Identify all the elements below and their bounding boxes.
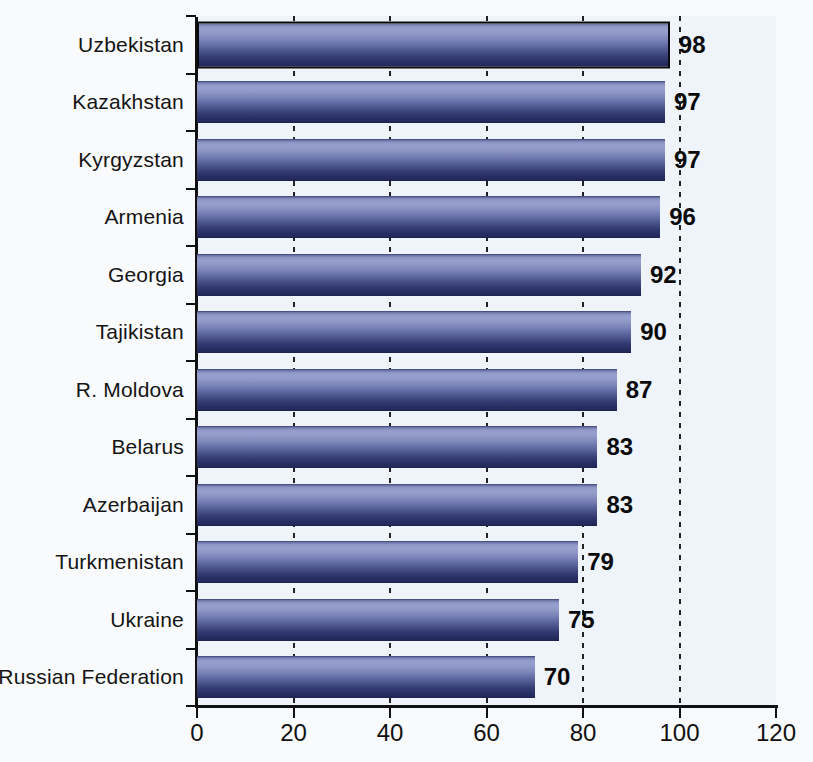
y-tick	[186, 15, 196, 17]
bar-row-azerbaijan: Azerbaijan 83	[0, 476, 813, 534]
y-tick	[186, 648, 196, 650]
bar-row-uzbekistan: Uzbekistan 98	[0, 16, 813, 74]
x-tick-label: 120	[748, 719, 804, 747]
bar-tajikistan	[197, 311, 631, 353]
x-tick	[679, 705, 681, 718]
x-tick-label: 20	[266, 719, 322, 747]
y-tick	[186, 590, 196, 592]
category-label: Armenia	[0, 189, 184, 247]
value-label: 92	[650, 261, 677, 289]
bar-armenia	[197, 196, 660, 238]
value-label: 70	[544, 663, 571, 691]
y-tick	[186, 418, 196, 420]
value-label: 98	[679, 31, 706, 59]
category-label: Uzbekistan	[0, 16, 184, 74]
bar-uzbekistan	[197, 21, 670, 68]
value-label: 97	[674, 146, 701, 174]
category-label: Georgia	[0, 246, 184, 304]
bar-kazakhstan	[197, 81, 665, 123]
x-tick	[582, 705, 584, 718]
bar-chart: Uzbekistan 98 Kazakhstan 97 Kyrgyzstan 9…	[0, 0, 813, 762]
value-label: 96	[669, 203, 696, 231]
category-label: Kazakhstan	[0, 74, 184, 132]
category-label: Azerbaijan	[0, 476, 184, 534]
bar-row-kyrgyzstan: Kyrgyzstan 97	[0, 131, 813, 189]
bar-row-r-moldova: R. Moldova 87	[0, 361, 813, 419]
value-label: 87	[626, 376, 653, 404]
bar-row-russian-federation: Russian Federation 70	[0, 649, 813, 707]
bar-georgia	[197, 254, 641, 296]
bar-row-tajikistan: Tajikistan 90	[0, 304, 813, 362]
x-tick	[775, 705, 777, 718]
y-tick	[186, 303, 196, 305]
bar-turkmenistan	[197, 541, 578, 583]
y-tick	[186, 533, 196, 535]
bar-r-moldova	[197, 369, 617, 411]
category-label: R. Moldova	[0, 361, 184, 419]
bar-row-belarus: Belarus 83	[0, 419, 813, 477]
bar-row-armenia: Armenia 96	[0, 189, 813, 247]
y-tick	[186, 360, 196, 362]
value-label: 75	[568, 606, 595, 634]
value-label: 90	[640, 318, 667, 346]
x-tick-label: 100	[652, 719, 708, 747]
value-label: 79	[587, 548, 614, 576]
x-tick-label: 80	[555, 719, 611, 747]
category-label: Ukraine	[0, 591, 184, 649]
y-tick	[186, 245, 196, 247]
value-label: 83	[606, 491, 633, 519]
x-tick	[389, 705, 391, 718]
bar-belarus	[197, 426, 597, 468]
y-tick	[186, 705, 196, 707]
value-label: 83	[606, 433, 633, 461]
bar-ukraine	[197, 599, 559, 641]
x-tick	[196, 705, 198, 718]
category-label: Russian Federation	[0, 649, 184, 707]
x-tick	[486, 705, 488, 718]
bar-row-ukraine: Ukraine 75	[0, 591, 813, 649]
x-tick	[293, 705, 295, 718]
category-label: Kyrgyzstan	[0, 131, 184, 189]
x-tick-label: 60	[459, 719, 515, 747]
category-label: Turkmenistan	[0, 534, 184, 592]
y-tick	[186, 475, 196, 477]
y-tick	[186, 73, 196, 75]
bar-azerbaijan	[197, 484, 597, 526]
bar-row-turkmenistan: Turkmenistan 79	[0, 534, 813, 592]
bar-kyrgyzstan	[197, 139, 665, 181]
bar-row-georgia: Georgia 92	[0, 246, 813, 304]
bar-row-kazakhstan: Kazakhstan 97	[0, 74, 813, 132]
y-tick	[186, 188, 196, 190]
x-tick-label: 40	[362, 719, 418, 747]
category-label: Belarus	[0, 419, 184, 477]
value-label: 97	[674, 88, 701, 116]
category-label: Tajikistan	[0, 304, 184, 362]
bar-russian-federation	[197, 656, 535, 698]
x-tick-label: 0	[169, 719, 225, 747]
y-tick	[186, 130, 196, 132]
